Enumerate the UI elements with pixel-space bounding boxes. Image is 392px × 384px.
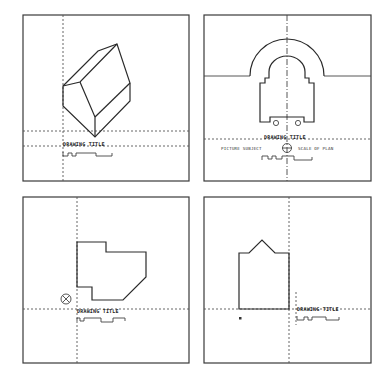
panel-section — [204, 197, 371, 363]
gabled-facade-outline — [239, 240, 289, 309]
scale-bar — [297, 316, 339, 320]
panel-isometric — [23, 15, 189, 181]
drawing-title-isometric: DRAWING TITLE — [63, 141, 105, 147]
drawing-title-elevation: DRAWING TITLE — [264, 134, 306, 140]
drawing-title-section: DRAWING TITLE — [297, 306, 339, 312]
drawing-title-plan: DRAWING TITLE — [77, 308, 119, 314]
panel-plan — [23, 197, 189, 363]
panel-frame — [204, 197, 371, 363]
floor-plan-outline — [77, 242, 146, 300]
caption-scale-of-plan: SCALE OF PLAN — [298, 146, 333, 152]
drawing-sheet — [0, 0, 392, 384]
north-arrow-symbol — [61, 294, 71, 304]
panel-frame — [23, 197, 189, 363]
marker-a — [239, 317, 242, 320]
isometric-house — [63, 44, 130, 137]
scale-bar — [77, 318, 125, 322]
caption-picture-subject: PICTURE SUBJECT — [221, 146, 262, 152]
scale-bar — [63, 152, 112, 156]
panel-elevation — [204, 15, 371, 181]
